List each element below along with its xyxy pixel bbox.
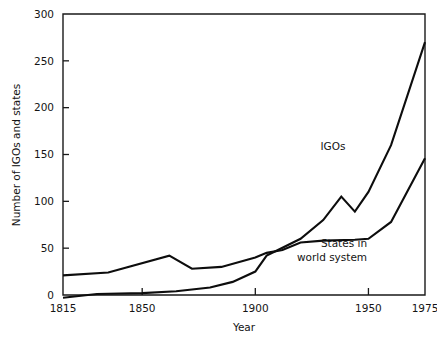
x-tick-label: 1975 [412,302,437,314]
x-axis-tick-labels: 18151850190019501975 [50,302,437,314]
y-tick-label: 0 [47,289,54,301]
x-axis-title: Year [232,321,256,333]
y-tick-label: 150 [34,148,54,160]
x-tick-label: 1900 [242,302,269,314]
series-line-states-in-world-system [63,158,425,275]
x-tick-label: 1850 [129,302,156,314]
series-annotation: IGOs [321,140,346,152]
data-series-group [63,42,425,298]
y-tick-label: 50 [41,242,54,254]
series-line-igos [63,42,425,298]
series-annotation: States in [321,237,367,249]
y-tick-label: 100 [34,195,54,207]
y-axis-ticks [63,61,69,248]
y-axis-title: Number of IGOs and states [10,84,22,226]
series-annotations: IGOsStates inworld system [297,140,367,263]
x-tick-label: 1815 [50,302,77,314]
y-tick-label: 250 [34,55,54,67]
line-chart: 050100150200250300 18151850190019501975 … [0,0,437,351]
x-tick-label: 1950 [355,302,382,314]
chart-page: 050100150200250300 18151850190019501975 … [0,0,437,351]
y-tick-label: 200 [34,101,54,113]
y-tick-label: 300 [34,8,54,20]
y-axis-tick-labels: 050100150200250300 [34,8,54,301]
series-annotation: world system [297,251,367,263]
plot-frame [63,14,425,295]
